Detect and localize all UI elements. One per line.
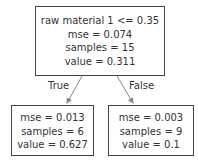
left-mse: mse = 0.013 (12, 111, 93, 125)
right-leaf-node: mse = 0.003 samples = 9 value = 0.1 (108, 105, 194, 156)
left-samples: samples = 6 (12, 125, 93, 139)
root-samples: samples = 15 (36, 41, 164, 55)
split-condition: raw material 1 <= 0.35 (36, 14, 164, 28)
right-samples: samples = 9 (109, 125, 193, 139)
left-value: value = 0.627 (12, 138, 93, 152)
right-value: value = 0.1 (109, 138, 193, 152)
root-node: raw material 1 <= 0.35 mse = 0.074 sampl… (35, 6, 165, 76)
root-mse: mse = 0.074 (36, 28, 164, 42)
false-label: False (129, 80, 154, 91)
right-mse: mse = 0.003 (109, 111, 193, 125)
root-value: value = 0.311 (36, 55, 164, 69)
true-label: True (48, 80, 69, 91)
edge-true (67, 76, 82, 103)
left-leaf-node: mse = 0.013 samples = 6 value = 0.627 (11, 105, 94, 156)
